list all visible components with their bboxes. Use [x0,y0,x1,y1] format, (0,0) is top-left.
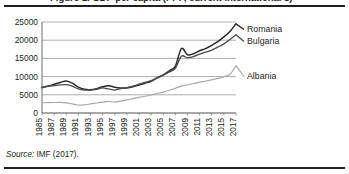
x-axis-tick-labels: 1985198719891991199319951997199920012003… [35,113,238,136]
x-tick-label: 1987 [47,118,56,137]
x-tick-label: 1991 [71,118,80,137]
series-label-bulgaria: Bulgaria [247,36,279,46]
x-tick-label: 2001 [132,118,141,137]
line-chart: 0500010000150002000025000 19851987198919… [0,8,349,148]
series-labels: RomaniaBulgariaAlbania [236,24,282,81]
y-tick-label: 0 [33,108,38,118]
y-tick-label: 10000 [15,72,39,82]
y-tick-label: 25000 [15,17,39,27]
x-tick-label: 2015 [217,118,226,137]
series-line-romania [42,24,236,90]
x-tick-label: 2003 [144,118,153,137]
y-axis-tick-labels: 0500010000150002000025000 [15,17,39,118]
x-tick-label: 2009 [181,118,190,137]
source-label: Source: [6,150,34,159]
series-label-albania: Albania [247,71,276,81]
figure-title: Figure 1. GDP per capita (PPP, current i… [50,0,293,3]
y-tick-label: 15000 [15,53,39,63]
y-tick-label: 20000 [15,35,39,45]
source-note: Source: IMF (2017). [6,150,79,159]
x-tick-label: 2007 [168,118,177,137]
x-tick-label: 2011 [193,118,202,136]
series-leader-albania [236,66,244,77]
x-tick-label: 2005 [156,118,165,137]
series-lines [42,24,236,105]
series-label-romania: Romania [247,24,282,34]
figure-bottom-rule [4,167,345,169]
series-leader-romania [236,24,244,30]
gridlines [42,22,236,113]
series-leader-bulgaria [236,35,244,42]
x-tick-label: 1997 [108,118,117,137]
x-tick-label: 1985 [35,118,44,137]
x-tick-label: 1999 [120,118,129,137]
y-tick-label: 5000 [19,90,38,100]
x-tick-label: 2017 [229,118,238,137]
x-tick-label: 1993 [84,118,93,137]
x-tick-label: 1995 [96,118,105,137]
x-tick-label: 2013 [205,118,214,137]
figure-title-clipped: Figure 1. GDP per capita (PPP, current i… [4,0,345,5]
figure-container: Figure 1. GDP per capita (PPP, current i… [0,0,349,174]
figure-top-rule [4,5,345,7]
x-tick-label: 1989 [59,118,68,137]
source-text: IMF (2017). [34,150,79,159]
